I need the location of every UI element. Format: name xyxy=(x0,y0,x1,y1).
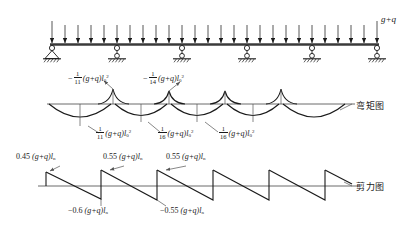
support-roller-5 xyxy=(303,45,321,62)
support-roller-6 xyxy=(368,45,386,62)
load-label: g+q xyxy=(381,14,396,24)
moment-top-label-1: −111(g+q)l02 xyxy=(68,70,109,85)
support-pin-1 xyxy=(43,45,61,62)
shear-bottom-label-1: −0.6 (g+q)ln xyxy=(68,206,108,215)
moment-top-label-2: −114(g+q)l02 xyxy=(143,70,184,85)
shear-diagram-title: 剪力图 xyxy=(356,180,385,193)
moment-bottom-label-3: 116(g+q)l02 xyxy=(218,125,254,140)
shear-diagram-group xyxy=(38,166,358,206)
shear-bottom-label-2: −0.55 (g+q)ln xyxy=(160,206,204,215)
support-roller-2 xyxy=(108,45,126,62)
moment-bottom-label-1: 111(g+q)l02 xyxy=(95,125,131,140)
shear-top-label-3: 0.55 (g+q)ln xyxy=(166,152,205,161)
moment-diagram-title: 弯矩图 xyxy=(356,99,385,112)
beam-diagrams-svg xyxy=(0,0,406,231)
figure-root: g+q −111(g+q)l02 −114(g+q)l02 111(g+q)l0… xyxy=(0,0,406,231)
moment-bottom-label-2: 116(g+q)l02 xyxy=(157,125,193,140)
moment-diagram-group xyxy=(47,81,355,133)
shear-top-label-2: 0.55 (g+q)ln xyxy=(103,152,142,161)
shear-top-label-1: 0.45 (g+q)ln xyxy=(16,152,55,161)
distributed-load-arrows xyxy=(52,21,377,43)
support-roller-3 xyxy=(173,45,191,62)
support-roller-4 xyxy=(238,45,256,62)
